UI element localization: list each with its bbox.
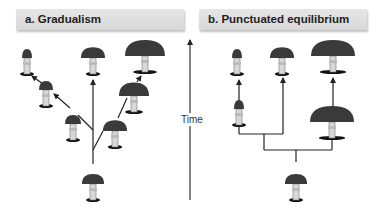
mushroom-icon	[310, 106, 354, 140]
mushroom-icon	[119, 83, 149, 115]
mushroom-icon	[270, 47, 294, 76]
mushroom-icon	[103, 120, 127, 149]
mushroom-icon	[230, 49, 244, 76]
mushroom-icon	[82, 174, 104, 202]
mushroom-icon	[20, 49, 34, 76]
mushroom-icon	[39, 81, 53, 108]
mushroom-icon	[232, 100, 246, 127]
mushroom-icon	[311, 40, 355, 74]
mushroom-icon	[81, 47, 105, 76]
evolution-diagram	[0, 0, 381, 213]
mushroom-icon	[125, 40, 165, 74]
mushroom-icon	[285, 174, 307, 202]
punctuated-mushrooms	[230, 40, 355, 202]
time-axis-label: Time	[181, 113, 203, 126]
mushroom-icon	[65, 115, 81, 142]
